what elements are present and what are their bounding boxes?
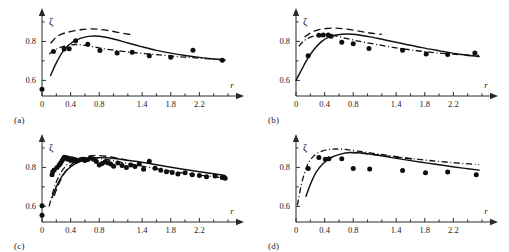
x-tick-label: 0.8 [348,225,359,235]
x-axis-title: r [484,80,488,90]
data-point [400,48,405,53]
data-point [115,50,120,55]
chart-panel-a: 00.40.81.41.82.20.60.8ζr(a) [0,0,254,126]
data-point [137,161,142,166]
plot-area-b: 00.40.81.41.82.20.60.8ζr [254,0,508,126]
data-point [183,170,188,175]
x-tick-group: 00.40.81.41.82.2 [294,92,482,109]
y-tick-label: 0.8 [279,36,290,46]
x-axis-title: r [484,206,488,216]
data-point [40,87,45,92]
curve-dashed [350,153,416,160]
x-tick-label: 0 [294,225,298,235]
data-point [73,38,78,43]
data-point [40,213,45,218]
x-tick-label: 0.8 [348,99,359,109]
data-point [197,173,202,178]
data-point [153,166,158,171]
data-point [321,32,326,37]
plot-area-d: 00.40.81.41.82.20.60.8ζr [254,126,508,252]
data-point [128,163,133,168]
chart-panel-d: 00.40.81.41.82.20.60.8ζr(d) [254,126,508,252]
y-axis-title: ζ [303,142,308,154]
y-axis [293,8,299,96]
x-tick-label: 2.2 [194,99,205,109]
x-axis-title: r [230,80,234,90]
data-point [168,55,173,60]
x-tick-label: 1.8 [165,99,176,109]
x-tick-label: 0 [294,99,298,109]
data-point [175,172,180,177]
data-point [190,172,195,177]
y-axis-title: ζ [303,16,308,28]
data-point [474,172,479,177]
data-point [115,161,120,166]
data-point [130,50,135,55]
data-point [424,51,429,56]
data-point [339,40,344,45]
x-tick-label: 1.4 [137,99,148,109]
chart-panel-b: 00.40.81.41.82.20.60.8ζr(b) [254,0,508,126]
curve-dashed [54,156,126,196]
y-tick-group: 0.60.8 [25,22,46,86]
x-tick-label: 2.2 [194,225,205,235]
y-axis-title: ζ [49,16,54,28]
data-point [158,168,163,173]
data-point [62,47,67,52]
data-point [85,42,90,47]
x-tick-label: 2.2 [448,99,459,109]
data-point [326,156,331,161]
data-point [220,58,225,63]
data-point [133,164,138,169]
y-tick-label: 0.6 [25,75,36,85]
x-tick-label: 0.8 [94,99,105,109]
data-point [472,51,477,56]
chart-panel-c: 00.40.81.41.82.20.60.8ζr(c) [0,126,254,252]
panel-label: (a) [14,115,25,125]
data-point [367,166,372,171]
data-point [445,52,450,57]
data-point [170,170,175,175]
data-point [164,169,169,174]
data-point-group [306,32,478,58]
data-point [51,49,56,54]
x-tick-label: 0 [40,99,44,109]
figure-container: 00.40.81.41.82.20.60.8ζr(a)00.40.81.41.8… [0,0,509,252]
y-tick-label: 0.6 [279,201,290,211]
x-tick-label: 1.4 [137,225,148,235]
data-point [366,46,371,51]
data-point [445,170,450,175]
y-tick-group: 0.60.8 [25,148,46,212]
y-axis-title: ζ [49,142,54,154]
x-tick-label: 0 [40,225,44,235]
data-point [223,176,228,181]
x-tick-group: 00.40.81.41.82.2 [40,92,228,109]
data-point [339,156,344,161]
x-tick-label: 0.4 [319,225,330,235]
x-axis-title: r [230,206,234,216]
data-point [40,203,45,208]
data-point [97,48,102,53]
data-point [120,163,125,168]
data-point [67,46,72,51]
y-tick-label: 0.8 [25,162,36,172]
data-point [316,155,321,160]
x-tick-label: 0.4 [319,99,330,109]
y-tick-label: 0.8 [279,162,290,172]
x-tick-label: 2.2 [448,225,459,235]
data-point [306,166,311,171]
x-tick-label: 0.4 [65,99,76,109]
data-point [213,173,218,178]
y-axis [39,134,45,222]
x-tick-label: 1.8 [419,225,430,235]
y-tick-group: 0.60.8 [279,148,300,212]
x-tick-label: 0.4 [65,225,76,235]
data-point [124,165,129,170]
panel-label: (c) [14,241,25,251]
data-point [111,164,116,169]
x-tick-group: 00.40.81.41.82.2 [40,218,228,235]
x-tick-label: 1.8 [165,225,176,235]
x-tick-label: 1.4 [391,225,402,235]
y-tick-label: 0.8 [25,36,36,46]
data-point [204,174,209,179]
